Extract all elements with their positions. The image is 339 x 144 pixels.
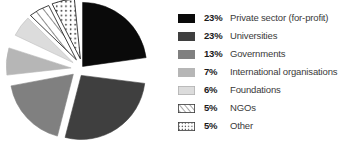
legend-value-foundations: 6%	[204, 85, 230, 95]
legend-label-governments: Governments	[230, 49, 285, 59]
legend-label-private-sector: Private sector (for-profit)	[230, 13, 328, 23]
swatch-governments-icon	[178, 50, 195, 59]
legend: 23% Private sector (for-profit) 23% Univ…	[178, 9, 339, 135]
pie-chart-graphic	[0, 0, 172, 144]
swatch-universities-icon	[178, 32, 195, 41]
legend-item-ngos: 5% NGOs	[178, 99, 339, 117]
legend-label-universities: Universities	[230, 31, 277, 41]
legend-value-private-sector: 23%	[204, 13, 230, 23]
legend-item-universities: 23% Universities	[178, 27, 339, 45]
pie-svg	[0, 0, 172, 144]
legend-value-ngos: 5%	[204, 103, 230, 113]
pie-slice-private-sector	[83, 2, 147, 66]
pie-chart-figure: 23% Private sector (for-profit) 23% Univ…	[0, 0, 339, 144]
legend-label-international-organisations: International organisations	[230, 67, 337, 77]
legend-value-other: 5%	[204, 121, 230, 131]
pie-slice-governments	[11, 74, 73, 136]
legend-item-private-sector: 23% Private sector (for-profit)	[178, 9, 339, 27]
swatch-ngos-icon	[178, 104, 195, 113]
swatch-international-organisations-icon	[178, 68, 195, 77]
legend-value-universities: 23%	[204, 31, 230, 41]
swatch-foundations-icon	[178, 86, 195, 95]
legend-label-foundations: Foundations	[230, 85, 281, 95]
pie-slice-universities	[65, 75, 145, 139]
swatch-other-icon	[178, 122, 195, 131]
legend-value-governments: 13%	[204, 49, 230, 59]
swatch-private-sector-icon	[178, 14, 195, 23]
legend-label-other: Other	[230, 121, 253, 131]
legend-label-ngos: NGOs	[230, 103, 256, 113]
legend-item-foundations: 6% Foundations	[178, 81, 339, 99]
legend-item-other: 5% Other	[178, 117, 339, 135]
legend-item-governments: 13% Governments	[178, 45, 339, 63]
legend-item-international-organisations: 7% International organisations	[178, 63, 339, 81]
legend-value-international-organisations: 7%	[204, 67, 230, 77]
